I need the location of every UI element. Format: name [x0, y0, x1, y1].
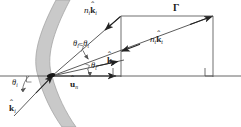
label-k-hat-t-hat: ˆ	[108, 51, 111, 60]
label-theta-i-sub: i	[16, 82, 17, 88]
label-u-hat-n-hat: ˆ	[71, 75, 74, 84]
label-gamma: Γ	[173, 3, 179, 13]
theta-i-arc	[23, 76, 30, 91]
label-theta-i: θi	[12, 79, 18, 87]
nt-kt-head-far	[190, 16, 212, 24]
theta-t-arc	[88, 70, 90, 77]
label-theta-diff-sub-i: i	[77, 43, 78, 49]
interface-band	[36, 0, 76, 127]
optics-refraction-figure: niˆki Γ ntˆkt θi−θt ˆkt θt ˆun θi ˆki	[0, 0, 241, 127]
label-gamma-text: Γ	[173, 2, 179, 13]
theta-difference-arc-tick	[86, 56, 88, 59]
theta-i-square-mark	[27, 76, 32, 82]
label-theta-diff-sub-t: t	[87, 43, 88, 49]
nt-kt-head-near	[122, 44, 141, 51]
label-ni-ki-hat: ˆ	[91, 1, 94, 10]
label-k-hat-t: ˆkt	[107, 56, 114, 65]
right-angle-mark-right	[205, 68, 213, 76]
label-theta-difference: θi−θt	[73, 40, 89, 48]
label-k-hat-t-sub: t	[112, 60, 114, 66]
label-u-hat-n-sub: n	[75, 84, 78, 90]
label-k-hat-i-hat: ˆ	[10, 99, 13, 108]
label-nt-kt-n: n	[150, 34, 155, 44]
label-ni-ki: niˆki	[84, 6, 97, 15]
ni-ki-arrowhead-line	[105, 17, 121, 31]
diagram-canvas	[0, 0, 241, 127]
label-nt-kt-hat: ˆ	[157, 30, 160, 39]
label-u-hat-n: ˆun	[70, 80, 78, 89]
label-ni-ki-k-sub: i	[95, 10, 97, 16]
label-nt-kt: ntˆkt	[150, 35, 163, 44]
label-theta-t-sub: t	[95, 65, 96, 71]
label-theta-t: θt	[91, 62, 97, 70]
label-ni-ki-n: n	[84, 5, 89, 15]
label-nt-kt-k-sub: t	[161, 39, 163, 45]
right-angle-mark-left	[113, 68, 121, 76]
label-k-hat-i-sub: i	[14, 108, 16, 114]
label-k-hat-i: ˆki	[9, 104, 16, 113]
